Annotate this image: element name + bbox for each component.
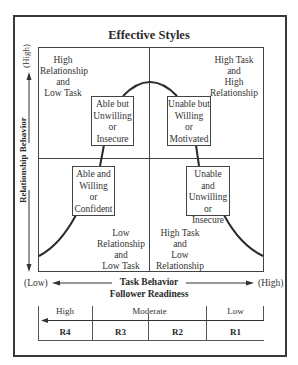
quadrant-label-bottom-right: High Task and Low Relationship: [152, 228, 208, 272]
readiness-table: High Moderate Low R4 R3 R2 R1: [38, 306, 264, 341]
quadrant-label-top-right: High Task and High Relationship: [206, 55, 262, 99]
style-box-unable-but-willing: Unable but Willing or Motivated: [167, 96, 211, 146]
quadrant-label-bottom-left: Low Relationship and Low Task: [93, 228, 149, 272]
readiness-stage-r3: R3: [93, 327, 148, 337]
readiness-level-high: High: [38, 306, 92, 316]
style-box-able-and-willing: Able and Willing or Confident: [72, 166, 115, 216]
style-box-unable-and-unwilling: Unable and Unwilling or Insecure: [186, 166, 230, 216]
x-axis-label: Task Behavior: [0, 277, 298, 287]
readiness-level-moderate: Moderate: [93, 306, 206, 316]
style-box-able-but-unwilling: Able but Unwilling or Insecure: [91, 96, 134, 146]
readiness-stage-r4: R4: [38, 327, 92, 337]
readiness-stage-r2: R2: [149, 327, 206, 337]
follower-readiness-label: Follower Readiness: [0, 289, 298, 299]
readiness-stage-r1: R1: [207, 327, 264, 337]
quadrant-label-top-left: High Relationship and Low Task: [40, 55, 86, 99]
readiness-level-low: Low: [207, 306, 264, 316]
